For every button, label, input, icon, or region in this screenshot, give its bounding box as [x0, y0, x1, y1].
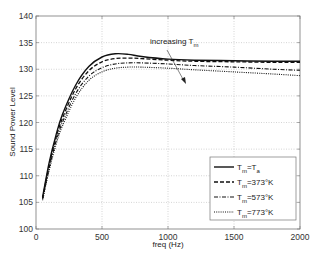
arrow-head-icon [181, 77, 186, 84]
y-axis-label: Sound Power Level [8, 87, 17, 157]
x-tick-label: 2000 [291, 232, 310, 242]
sound-power-chart: 100105110115120125130135140 050010001500… [0, 0, 320, 262]
x-tick-label: 500 [95, 232, 109, 242]
x-tick-label: 0 [34, 232, 39, 242]
y-tick-label: 120 [19, 118, 33, 128]
y-tick-label: 115 [19, 144, 33, 154]
y-tick-label: 100 [19, 224, 33, 234]
annotation-arrow [167, 50, 184, 81]
y-tick-label: 125 [19, 91, 33, 101]
x-tick-label: 1500 [225, 232, 244, 242]
y-tick-label: 135 [19, 38, 33, 48]
x-axis-label: freq (Hz) [152, 240, 183, 249]
y-tick-label: 130 [19, 64, 33, 74]
annotation-text: increasing Tm [150, 37, 198, 48]
y-tick-label: 105 [19, 197, 33, 207]
legend: Tm=TaTm=373°KTm=573°KTm=773°K [210, 157, 296, 220]
y-tick-label: 140 [19, 11, 33, 21]
y-tick-label: 110 [19, 171, 33, 181]
